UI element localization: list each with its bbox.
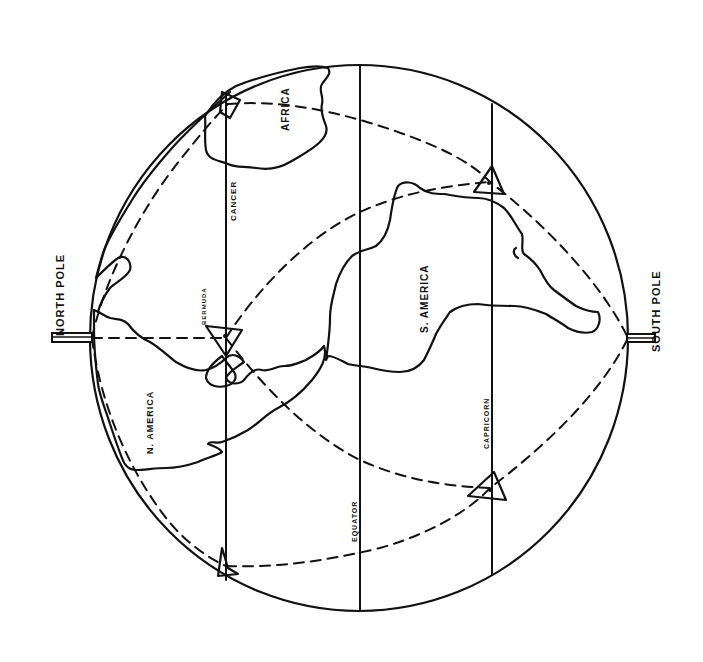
route-pole-to-pacific [92,338,226,566]
cancer-label: CANCER [229,181,238,221]
coastline-inlet [514,248,518,258]
route-pacific-to-south-pole [226,338,628,566]
route-pole-to-africa [92,104,228,338]
africa-label: AFRICA [280,87,291,131]
south-america-landmass [326,182,600,372]
equator-label: EQUATOR [351,501,359,542]
s-america-label: S. AMERICA [419,264,430,333]
south-atlantic-south-triangle-marker [468,472,506,500]
globe-map: NORTH POLE SOUTH POLE AFRICA CANCER BERM… [0,0,703,662]
capricorn-label: CAPRICORN [483,398,490,449]
n-america-label: N. AMERICA [145,391,155,454]
north-pole-label: NORTH POLE [54,254,66,336]
route-bermuda-to-south-atlantic-south [226,338,490,488]
bermuda-label: BERMUDA [201,287,207,325]
north-america-landmass [94,310,325,470]
route-bermuda-to-south-atlantic-north [226,182,490,338]
south-pole-label: SOUTH POLE [650,270,662,352]
